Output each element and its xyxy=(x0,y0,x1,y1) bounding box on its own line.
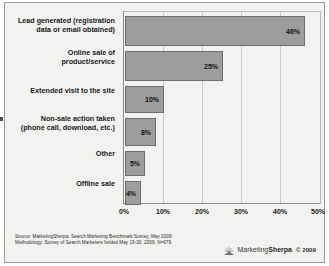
logo-name-part1: Marketing xyxy=(237,246,268,253)
chart-screenshot: Lead generated (registration data or ema… xyxy=(0,0,329,266)
bar-non-sale-action[interactable]: 8% xyxy=(125,118,156,146)
xtick-label-10: 10% xyxy=(156,208,170,215)
xtick-label-50: 50% xyxy=(311,208,325,215)
bar-value-label: 8% xyxy=(141,129,155,136)
footer-notes: Source: MarketingSherpa, Search Marketin… xyxy=(15,234,172,246)
logo-copyright: © 2009 xyxy=(296,246,316,253)
bar-value-label: 4% xyxy=(126,190,140,197)
category-label-line2: (phone call, download, etc.) xyxy=(0,124,115,133)
marketingsherpa-logo: MarketingSherpa © 2009 xyxy=(223,243,316,255)
bar-online-sale[interactable]: 25% xyxy=(125,51,223,81)
xtick-label-20: 20% xyxy=(195,208,209,215)
sunburst-icon xyxy=(223,243,235,255)
bar-value-label: 25% xyxy=(204,63,222,70)
category-label-line2: data or email obtained) xyxy=(0,26,115,35)
bar-lead-generated[interactable]: 46% xyxy=(125,16,305,46)
xtick-label-40: 40% xyxy=(273,208,287,215)
bar-other[interactable]: 5% xyxy=(125,151,145,176)
category-label-online-sale: Online sale of product/service xyxy=(0,49,115,66)
bar-value-label: 10% xyxy=(145,96,163,103)
logo-name-part2: Sherpa xyxy=(268,246,292,253)
category-label-line1: Extended visit to the site xyxy=(0,87,115,96)
logo-wordmark: MarketingSherpa xyxy=(237,246,291,253)
footer-methodology-line: Methodology: Survey of Search Marketers … xyxy=(15,240,172,246)
bar-extended-visit[interactable]: 10% xyxy=(125,86,164,113)
category-label-line2: product/service xyxy=(0,58,115,67)
category-label-non-sale-action: Non-sale action taken (phone call, downl… xyxy=(0,115,115,132)
bar-value-label: 5% xyxy=(130,160,144,167)
category-label-extended-visit: Extended visit to the site xyxy=(0,87,115,96)
category-label-offline-sale: Offline sale xyxy=(0,180,115,189)
category-label-other: Other xyxy=(0,150,115,159)
bar-offline-sale[interactable]: 4% xyxy=(125,181,141,205)
category-label-line1: Offline sale xyxy=(0,180,115,189)
bar-value-label: 46% xyxy=(286,28,304,35)
xtick-label-0: 0% xyxy=(119,208,129,215)
xtick-label-30: 30% xyxy=(234,208,248,215)
plot-area: 46% 25% 10% 8% 5% 4% xyxy=(123,11,321,204)
category-label-line1: Other xyxy=(0,150,115,159)
chart-panel: Lead generated (registration data or ema… xyxy=(4,2,325,263)
category-label-lead-generated: Lead generated (registration data or ema… xyxy=(0,17,115,34)
